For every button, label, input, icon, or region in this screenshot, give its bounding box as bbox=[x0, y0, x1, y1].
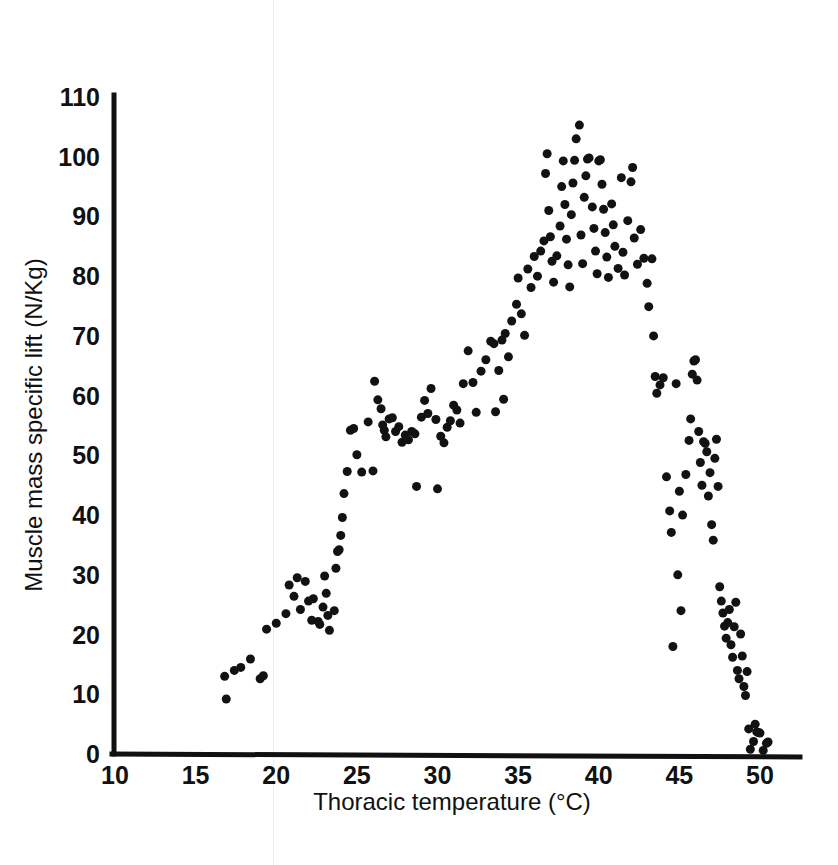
data-point bbox=[681, 470, 690, 479]
data-point bbox=[335, 545, 344, 554]
data-point bbox=[728, 653, 737, 662]
data-point bbox=[709, 536, 718, 545]
y-tick-label: 0 bbox=[86, 740, 100, 768]
data-point bbox=[596, 155, 605, 164]
data-point bbox=[236, 663, 245, 672]
data-point bbox=[543, 149, 552, 158]
data-point bbox=[726, 640, 735, 649]
data-point bbox=[610, 242, 619, 251]
data-point bbox=[685, 436, 694, 445]
data-point bbox=[246, 655, 255, 664]
data-point bbox=[349, 424, 358, 433]
data-point bbox=[549, 278, 558, 287]
data-point bbox=[559, 156, 568, 165]
data-point bbox=[704, 491, 713, 500]
data-point bbox=[714, 482, 723, 491]
y-tick-label: 30 bbox=[72, 561, 100, 589]
data-point bbox=[628, 163, 637, 172]
data-point bbox=[338, 513, 347, 522]
x-axis-title: Thoracic temperature (°C) bbox=[313, 788, 591, 815]
data-point bbox=[581, 171, 590, 180]
y-tick-label: 60 bbox=[72, 382, 100, 410]
data-point bbox=[614, 264, 623, 273]
data-point bbox=[712, 435, 721, 444]
data-point bbox=[514, 273, 523, 282]
data-point bbox=[388, 413, 397, 422]
data-point bbox=[597, 180, 606, 189]
data-point bbox=[662, 472, 671, 481]
data-point bbox=[672, 379, 681, 388]
data-point bbox=[701, 439, 710, 448]
data-point bbox=[609, 220, 618, 229]
x-tick-label: 25 bbox=[343, 761, 371, 789]
data-point bbox=[325, 626, 334, 635]
data-point bbox=[764, 738, 773, 747]
data-point bbox=[456, 419, 465, 428]
data-point bbox=[604, 273, 613, 282]
data-point bbox=[501, 329, 510, 338]
data-point bbox=[315, 620, 324, 629]
data-point bbox=[585, 153, 594, 162]
data-point bbox=[564, 260, 573, 269]
data-point bbox=[412, 482, 421, 491]
data-point bbox=[420, 396, 429, 405]
data-point bbox=[580, 193, 589, 202]
data-point bbox=[570, 156, 579, 165]
data-point bbox=[494, 366, 503, 375]
data-point bbox=[481, 355, 490, 364]
data-point bbox=[320, 572, 329, 581]
data-point bbox=[523, 265, 532, 274]
data-point bbox=[697, 481, 706, 490]
data-point bbox=[686, 414, 695, 423]
data-point bbox=[696, 458, 705, 467]
data-point bbox=[730, 622, 739, 631]
data-point bbox=[710, 454, 719, 463]
data-point bbox=[620, 270, 629, 279]
data-point bbox=[364, 417, 373, 426]
data-point bbox=[733, 666, 742, 675]
data-point bbox=[472, 408, 481, 417]
y-tick-label: 100 bbox=[58, 143, 100, 171]
data-point bbox=[296, 605, 305, 614]
data-point bbox=[293, 573, 302, 582]
data-point bbox=[618, 248, 627, 257]
data-point bbox=[627, 177, 636, 186]
data-point bbox=[652, 389, 661, 398]
x-tick-labels: 101520253035404550 bbox=[101, 761, 774, 789]
data-point bbox=[357, 468, 366, 477]
data-point bbox=[281, 609, 290, 618]
data-point bbox=[499, 395, 508, 404]
data-point bbox=[568, 179, 577, 188]
data-point bbox=[578, 259, 587, 268]
data-point bbox=[556, 222, 565, 231]
y-tick-label: 70 bbox=[72, 322, 100, 350]
data-point bbox=[756, 729, 765, 738]
data-point bbox=[520, 331, 529, 340]
data-point bbox=[738, 652, 747, 661]
data-point bbox=[464, 346, 473, 355]
data-point bbox=[331, 564, 340, 573]
data-point bbox=[577, 230, 586, 239]
data-point bbox=[562, 235, 571, 244]
data-point bbox=[352, 450, 361, 459]
data-point bbox=[301, 577, 310, 586]
data-point bbox=[601, 228, 610, 237]
data-point bbox=[702, 447, 711, 456]
data-point bbox=[552, 251, 561, 260]
data-point bbox=[593, 269, 602, 278]
y-tick-label: 80 bbox=[72, 262, 100, 290]
data-point bbox=[410, 429, 419, 438]
data-point bbox=[336, 531, 345, 540]
data-point bbox=[647, 254, 656, 263]
data-point bbox=[373, 395, 382, 404]
data-point bbox=[649, 331, 658, 340]
axes bbox=[112, 95, 800, 757]
data-point bbox=[433, 484, 442, 493]
data-point bbox=[330, 606, 339, 615]
data-point bbox=[222, 695, 231, 704]
data-point bbox=[639, 254, 648, 263]
data-point bbox=[676, 606, 685, 615]
y-tick-label: 90 bbox=[72, 202, 100, 230]
y-tick-label: 50 bbox=[72, 441, 100, 469]
data-point bbox=[630, 233, 639, 242]
